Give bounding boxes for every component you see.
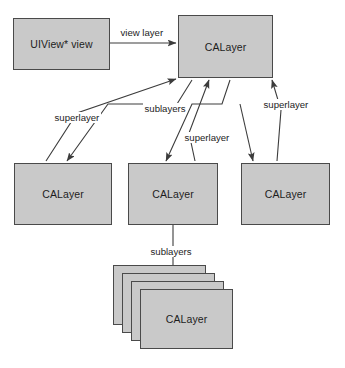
node-calayer-stack-1[interactable]: CALayer [140, 289, 233, 349]
node-label-calayer-right: CALayer [265, 188, 307, 200]
node-uiview[interactable]: UIView* view [13, 18, 110, 70]
edge-label-superlayer-left: superlayer [53, 112, 101, 123]
edge-line-superlayer-center [189, 80, 209, 161]
node-label-calayer-stack: CALayer [166, 313, 208, 325]
node-calayer-right[interactable]: CALayer [241, 163, 330, 225]
edge-label-superlayer-center: superlayer [183, 132, 231, 143]
diagram-canvas: UIView* view CALayer CALayer CALayer CAL… [0, 0, 345, 368]
edge-label-view-layer: view layer [119, 27, 165, 38]
node-label-uiview: UIView* view [30, 38, 92, 50]
edge-line-sublayers-right [240, 104, 253, 161]
node-root-calayer[interactable]: CALayer [178, 15, 273, 78]
edge-label-sublayers-bottom: sublayers [149, 246, 193, 257]
node-label-root-calayer: CALayer [205, 41, 247, 53]
node-label-calayer-center: CALayer [152, 188, 194, 200]
edge-label-superlayer-right: superlayer [262, 99, 310, 110]
node-calayer-left[interactable]: CALayer [14, 163, 112, 225]
node-calayer-center[interactable]: CALayer [128, 163, 218, 225]
edge-label-sublayers-top: sublayers [143, 103, 187, 114]
node-label-calayer-left: CALayer [42, 188, 84, 200]
edge-line-superlayer-right [272, 80, 281, 161]
edge-line-sublayers-center [166, 80, 230, 161]
